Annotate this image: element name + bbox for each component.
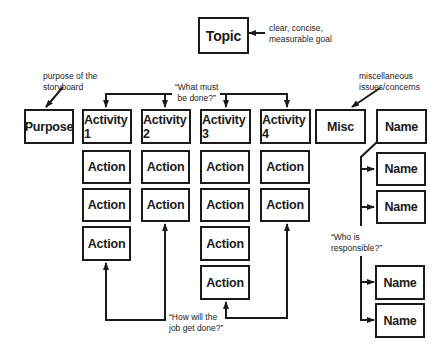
- name-box-3: Name: [376, 190, 426, 224]
- activity-3-action-2: Action: [200, 188, 250, 222]
- names-connector-top: [361, 142, 377, 226]
- purpose-box: Purpose: [24, 109, 74, 144]
- name-box-5: Name: [375, 303, 425, 338]
- activity-3-action-4: Action: [200, 265, 250, 300]
- misc-label: Misc: [327, 120, 354, 134]
- names-note: “Who is responsible?”: [331, 232, 382, 254]
- actions-note: “How will the job get done?”: [169, 312, 223, 334]
- activity-2-action-2: Action: [141, 188, 190, 222]
- activity-4-box: Activity 4: [260, 109, 311, 144]
- names-connector-bottom: [361, 256, 374, 320]
- purpose-note: purpose of the storyboard: [43, 71, 97, 93]
- activity-4-action-1: Action: [260, 150, 310, 184]
- activity-1-action-1: Action: [82, 150, 131, 184]
- purpose-label: Purpose: [25, 120, 74, 134]
- activity-3-box: Activity 3: [200, 109, 251, 144]
- name-box-1: Name: [376, 109, 427, 144]
- activity-4-action-2: Action: [260, 188, 310, 222]
- activity-2-action-1: Action: [141, 150, 190, 184]
- name-box-4: Name: [375, 265, 425, 300]
- topic-label: Topic: [206, 28, 241, 44]
- activities-note: “What must be done?”: [175, 82, 218, 104]
- misc-box: Misc: [315, 109, 366, 144]
- topic-note: clear, concise, measurable goal: [269, 23, 332, 45]
- activity-1-box: Activity 1: [82, 109, 132, 144]
- misc-note: miscellaneous issues/concerns: [359, 71, 420, 93]
- activity-1-action-3: Action: [82, 226, 131, 261]
- activity-3-action-3: Action: [200, 226, 250, 261]
- activities-bracket-left: [106, 94, 172, 107]
- name-box-2: Name: [376, 152, 426, 186]
- activity-3-action-1: Action: [200, 150, 250, 184]
- activity-2-box: Activity 2: [141, 109, 191, 144]
- activity-1-action-2: Action: [82, 188, 131, 222]
- activities-bracket-right: [220, 94, 287, 107]
- topic-box: Topic: [198, 17, 249, 54]
